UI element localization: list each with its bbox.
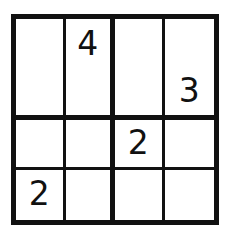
sudoku-cell-r3c1[interactable] xyxy=(16,120,66,170)
sudoku-cell-r1c3[interactable] xyxy=(115,19,165,69)
sudoku-cell-value-r4c1: 2 xyxy=(29,177,50,210)
sudoku-cell-r4c3[interactable] xyxy=(115,170,165,220)
sudoku-cell-r2c3[interactable] xyxy=(115,69,165,119)
sudoku-cell-r2c4[interactable]: 3 xyxy=(165,69,215,119)
sudoku-cell-r3c2[interactable] xyxy=(66,120,116,170)
sudoku-cell-value-r1c2: 4 xyxy=(77,27,98,60)
sudoku-cell-r4c4[interactable] xyxy=(165,170,215,220)
sudoku-cell-r1c2[interactable]: 4 xyxy=(66,19,116,69)
sudoku-cell-r2c1[interactable] xyxy=(16,69,66,119)
puzzle-canvas: 4 3 xyxy=(0,0,229,239)
sudoku-grid-cells: 4 3 xyxy=(16,19,214,220)
sudoku-cell-value-r3c3: 2 xyxy=(128,126,149,159)
sudoku-grid: 4 3 xyxy=(11,14,219,225)
sudoku-cell-r1c4[interactable] xyxy=(165,19,215,69)
sudoku-cell-value-r2c4: 3 xyxy=(179,74,200,107)
sudoku-cell-r3c3[interactable]: 2 xyxy=(115,120,165,170)
sudoku-cell-r1c1[interactable] xyxy=(16,19,66,69)
sudoku-cell-r2c2[interactable] xyxy=(66,69,116,119)
sudoku-cell-r3c4[interactable] xyxy=(165,120,215,170)
sudoku-cell-r4c1[interactable]: 2 xyxy=(16,170,66,220)
sudoku-cell-r4c2[interactable] xyxy=(66,170,116,220)
